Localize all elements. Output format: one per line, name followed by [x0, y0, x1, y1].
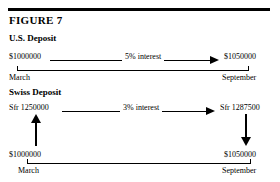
bottom-end-amount: $1050000: [224, 150, 256, 159]
conversion-down-arrowhead-icon: [241, 137, 251, 146]
bottom-start-amount: $1000000: [9, 150, 41, 159]
conversion-down-arrow-stem: [245, 114, 247, 138]
section-heading-us-deposit: U.S. Deposit: [9, 33, 56, 43]
swiss-start-amount: Sfr 1250000: [9, 103, 49, 112]
bottom-timeline-tick-end: [250, 159, 251, 164]
swiss-interest-arrowhead-icon: [206, 107, 215, 115]
bottom-period-start-label: March: [18, 166, 39, 175]
section-heading-swiss-deposit: Swiss Deposit: [9, 87, 61, 97]
bottom-timeline-tick-start: [27, 159, 28, 164]
us-interest-label: 5% interest: [122, 52, 164, 61]
us-timeline-tick-end: [248, 66, 249, 71]
swiss-interest-label: 3% interest: [120, 103, 162, 112]
conversion-up-arrowhead-icon: [31, 114, 41, 123]
us-period-end-label: September: [222, 73, 256, 82]
us-interest-arrowhead-icon: [210, 56, 219, 64]
top-rule-divider: [8, 8, 270, 11]
bottom-timeline-axis: [27, 163, 251, 164]
swiss-end-amount: Sfr 1287500: [220, 103, 260, 112]
conversion-up-arrow-stem: [35, 122, 37, 146]
us-start-amount: $1000000: [9, 52, 41, 61]
bottom-period-end-label: September: [222, 166, 256, 175]
us-timeline-axis: [17, 70, 249, 71]
figure-7-diagram: FIGURE 7 U.S. Deposit $1000000 5% intere…: [0, 0, 280, 182]
us-end-amount: $1050000: [224, 52, 256, 61]
us-timeline-tick-start: [17, 66, 18, 71]
figure-title: FIGURE 7: [9, 14, 62, 26]
us-period-start-label: March: [9, 73, 30, 82]
